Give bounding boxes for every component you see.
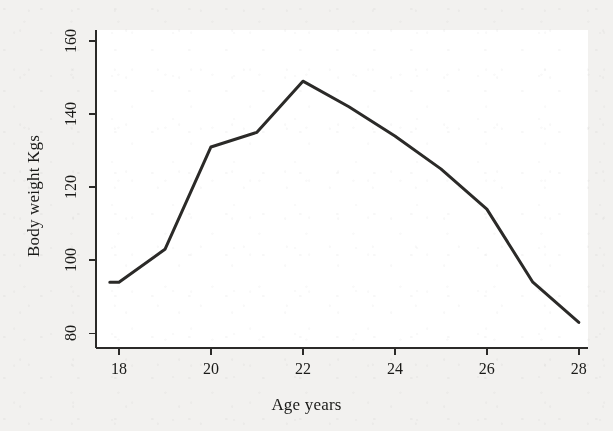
y-tick-label: 120 — [62, 175, 80, 199]
y-axis-title: Body weight Kgs — [24, 66, 44, 326]
x-tick-label: 18 — [111, 360, 127, 378]
x-tick-label: 24 — [387, 360, 403, 378]
y-tick-label: 100 — [62, 248, 80, 272]
x-tick-label: 22 — [295, 360, 311, 378]
chart-figure: 182022242628 80100120140160 Age years Bo… — [0, 0, 613, 431]
plot-panel — [96, 30, 588, 348]
y-tick-label: 80 — [62, 325, 80, 341]
y-tick-label: 160 — [62, 29, 80, 53]
x-tick-label: 28 — [571, 360, 587, 378]
x-tick-label: 20 — [203, 360, 219, 378]
y-tick-label: 140 — [62, 102, 80, 126]
x-axis-title: Age years — [0, 395, 613, 415]
x-tick-label: 26 — [479, 360, 495, 378]
